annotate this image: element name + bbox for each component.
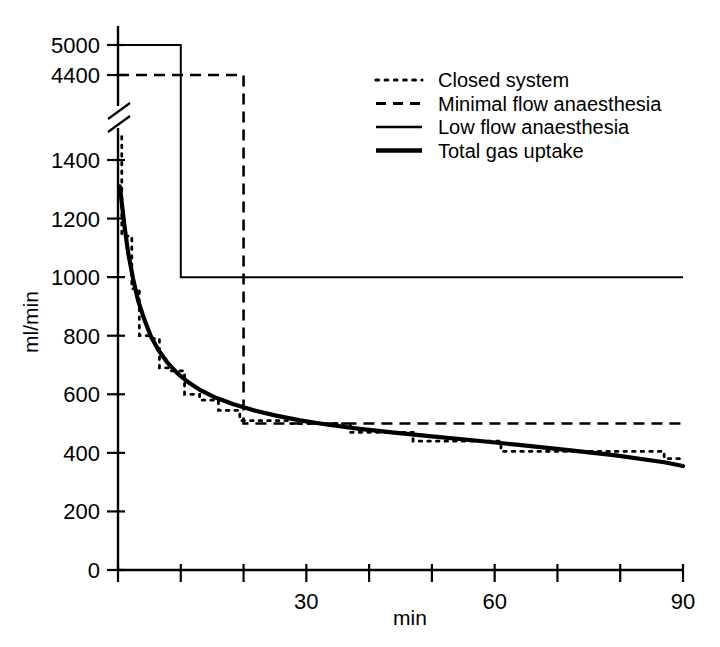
- legend-label: Total gas uptake: [438, 140, 584, 162]
- y-axis-break-icon: [108, 103, 130, 132]
- y-tick-label: 600: [63, 382, 100, 407]
- y-tick-label: 1400: [51, 148, 100, 173]
- series-closed-system: [122, 137, 683, 459]
- legend-label: Closed system: [438, 69, 569, 91]
- x-axis-title: min: [393, 606, 427, 629]
- series-low-flow-anaesthesia: [118, 45, 683, 277]
- chart-legend: Closed systemMinimal flow anaesthesiaLow…: [376, 69, 662, 162]
- y-tick-label: 0: [88, 558, 100, 583]
- y-tick-label: 4400: [51, 63, 100, 88]
- x-tick-label: 30: [294, 589, 318, 614]
- chart-svg: 020040060080010001200140044005000 306090…: [0, 0, 720, 647]
- legend-label: Minimal flow anaesthesia: [438, 93, 662, 115]
- y-tick-label: 1000: [51, 265, 100, 290]
- y-tick-label: 5000: [51, 33, 100, 58]
- y-tick-label: 800: [63, 324, 100, 349]
- y-tick-label: 400: [63, 441, 100, 466]
- legend-label: Low flow anaesthesia: [438, 116, 630, 138]
- y-axis-title: ml/min: [19, 291, 42, 353]
- x-tick-label: 60: [482, 589, 506, 614]
- y-tick-label: 1200: [51, 207, 100, 232]
- chart-figure: 020040060080010001200140044005000 306090…: [0, 0, 720, 647]
- x-tick-label: 90: [671, 589, 695, 614]
- x-axis-ticks: [118, 564, 683, 582]
- y-tick-label: 200: [63, 499, 100, 524]
- y-axis-tick-labels: 020040060080010001200140044005000: [51, 33, 100, 583]
- x-axis-tick-labels: 306090: [294, 589, 695, 614]
